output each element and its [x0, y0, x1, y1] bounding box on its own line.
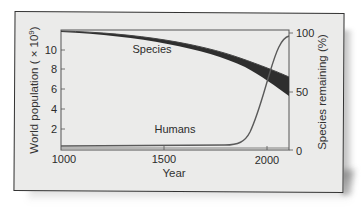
y-right-tick-50: 50: [296, 86, 308, 98]
x-tick-2000: 2000: [255, 154, 279, 166]
humans-label: Humans: [155, 123, 196, 135]
x-axis-title: Year: [162, 167, 185, 179]
y-left-tick-6: 6: [51, 83, 57, 95]
y-left-tick-2: 2: [51, 123, 57, 135]
y-right-tick-100: 100: [296, 27, 314, 39]
y-left-axis-title: World population ( × 109): [27, 26, 40, 153]
chart: Species Humans 10 8 6 4 2 1000 1500 2000…: [0, 0, 363, 209]
species-label: Species: [132, 43, 172, 55]
y-right-tick-0: 0: [296, 145, 302, 157]
y-left-tick-4: 4: [51, 103, 57, 115]
y-right-axis-title: Species remaining (%): [316, 34, 328, 150]
x-tick-1000: 1000: [52, 153, 76, 165]
y-left-tick-10: 10: [45, 44, 57, 56]
y-left-tick-8: 8: [51, 63, 57, 75]
x-tick-1500: 1500: [152, 153, 176, 165]
